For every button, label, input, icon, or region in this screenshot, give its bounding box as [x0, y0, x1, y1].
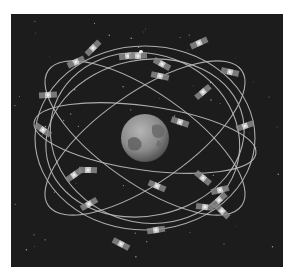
solar-panel — [196, 203, 203, 210]
star — [189, 35, 190, 36]
star — [180, 37, 181, 38]
star — [235, 226, 236, 227]
solar-panel — [162, 74, 169, 81]
star — [220, 103, 221, 104]
star — [278, 173, 279, 174]
star — [42, 134, 43, 135]
star — [213, 175, 214, 176]
star — [26, 249, 28, 251]
star — [268, 96, 269, 97]
star — [143, 32, 144, 33]
satellite — [39, 92, 57, 99]
star — [15, 204, 16, 205]
constellation-illustration — [0, 0, 297, 278]
star — [193, 86, 194, 87]
star — [14, 105, 15, 106]
star — [45, 239, 46, 240]
satellite — [79, 167, 97, 174]
star — [190, 232, 191, 233]
solar-panel — [151, 71, 158, 78]
star — [249, 133, 250, 134]
star — [54, 191, 55, 192]
star — [34, 21, 35, 22]
solar-panel — [51, 92, 57, 98]
star — [146, 241, 147, 242]
star — [159, 98, 160, 99]
star — [130, 109, 131, 110]
star — [35, 33, 36, 34]
solar-panel — [129, 53, 135, 59]
star — [78, 126, 79, 127]
star — [34, 234, 35, 235]
star — [235, 58, 236, 59]
star — [135, 233, 136, 234]
solar-panel — [147, 228, 154, 235]
solar-panel — [119, 53, 126, 60]
star — [133, 38, 134, 39]
star — [122, 86, 123, 87]
earth-globe — [121, 114, 169, 162]
solar-panel — [141, 52, 147, 58]
star — [188, 49, 189, 50]
star — [34, 246, 35, 247]
star — [123, 185, 124, 186]
star — [145, 29, 146, 30]
star — [45, 126, 47, 128]
star — [205, 175, 206, 176]
star — [174, 115, 175, 116]
solar-panel — [79, 167, 85, 173]
satellite — [129, 52, 147, 59]
star — [109, 34, 110, 35]
star — [277, 127, 278, 128]
star — [272, 246, 273, 247]
star — [63, 120, 64, 121]
star — [210, 99, 212, 101]
star — [76, 183, 77, 184]
star — [223, 243, 224, 244]
solar-panel — [39, 92, 45, 98]
solar-panel — [91, 167, 97, 173]
star — [94, 23, 95, 24]
star — [130, 38, 132, 40]
star — [70, 113, 71, 114]
star — [135, 256, 136, 257]
solar-panel — [158, 226, 165, 233]
star — [19, 96, 20, 97]
earth — [121, 114, 169, 162]
star — [49, 57, 50, 58]
star — [253, 82, 254, 83]
